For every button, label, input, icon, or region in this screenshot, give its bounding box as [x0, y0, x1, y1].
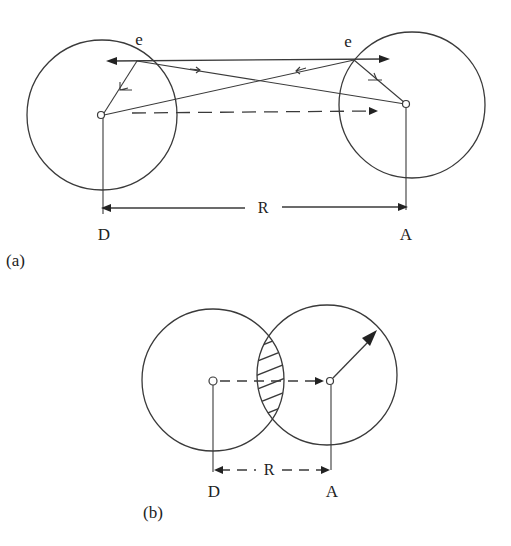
dashed-transfer-line-a: [132, 111, 372, 113]
arrow-mark-icon: [120, 82, 132, 90]
donor-center-a: [98, 112, 105, 119]
acceptor-circle-b: [257, 305, 397, 445]
panel-a: e e R D A (a): [6, 30, 485, 270]
acceptor-radius-arrow: [333, 340, 370, 378]
donor-label-b: D: [208, 482, 220, 501]
cross-line-donor-e-to-acceptor: [137, 61, 405, 104]
cross-line-acceptor-e-to-donor: [104, 60, 354, 115]
acceptor-circle-a: [339, 32, 485, 178]
acceptor-label-a: A: [400, 225, 413, 244]
electron-label-left: e: [135, 30, 143, 49]
panel-b: R D A (b): [142, 305, 397, 522]
acceptor-label-b: A: [326, 482, 339, 501]
donor-center-b: [209, 377, 217, 385]
acceptor-center-b: [327, 378, 334, 385]
arrowhead-right-icon: [321, 466, 330, 474]
acceptor-center-a: [403, 101, 410, 108]
panel-label-a: (a): [6, 251, 25, 270]
panel-label-b: (b): [143, 503, 163, 522]
donor-acceptor-diagram: e e R D A (a): [0, 0, 511, 546]
arrowhead-right-icon: [369, 107, 378, 115]
arrowhead-left-icon: [214, 466, 223, 474]
electron-label-right: e: [344, 32, 352, 51]
distance-label-b: R: [264, 461, 275, 478]
overlap-hatching: [245, 330, 300, 450]
distance-label-a: R: [258, 199, 269, 216]
arrowhead-left-icon: [106, 57, 117, 65]
arrowhead-right-icon: [379, 55, 390, 63]
donor-label-a: D: [98, 225, 110, 244]
arrowhead-diagonal-icon: [362, 330, 377, 346]
arrowhead-right-icon: [315, 377, 324, 385]
